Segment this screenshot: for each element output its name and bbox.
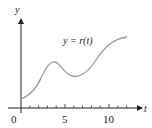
origin-label: 0 — [11, 113, 17, 125]
x-tick-label-10: 10 — [103, 113, 115, 125]
curve-label: y = r(t) — [62, 35, 93, 47]
y-axis-label: y — [14, 4, 20, 15]
x-tick-label-5: 5 — [62, 113, 68, 125]
curve-r-of-t — [21, 37, 127, 99]
x-axis-ticks — [30, 104, 127, 108]
x-axis-label: t — [144, 103, 147, 114]
graph: y t 0 5 10 y = r(t) — [0, 0, 152, 128]
